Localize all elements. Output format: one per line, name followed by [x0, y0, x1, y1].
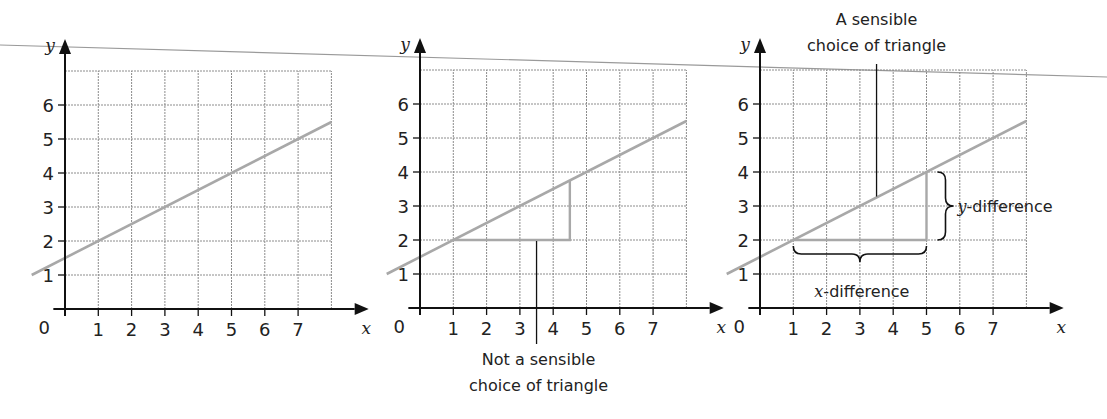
origin-label: 0 [734, 316, 745, 337]
x-axis-label: x [362, 318, 372, 338]
x-tick-label: 6 [259, 319, 270, 340]
x-tick-label: 5 [581, 318, 592, 339]
x-tick-label: 7 [987, 318, 998, 339]
gradient-triangles-figure: 12345671234560xy12345671234560xyNot a se… [0, 0, 1107, 419]
x-tick-label: 6 [954, 318, 965, 339]
callout-text: A sensible [836, 10, 918, 29]
y-difference-brace [938, 172, 954, 240]
y-tick-label: 6 [43, 95, 54, 116]
x-tick-label: 2 [481, 318, 492, 339]
y-tick-label: 6 [738, 94, 749, 115]
y-tick-label: 2 [43, 231, 54, 252]
y-axis-label: y [44, 35, 55, 55]
y-tick-label: 5 [398, 128, 409, 149]
x-difference-label: x-difference [814, 282, 909, 301]
x-tick-label: 7 [647, 318, 658, 339]
y-tick-label: 3 [738, 196, 749, 217]
y-tick-label: 2 [738, 230, 749, 251]
callout-text: choice of triangle [469, 376, 608, 395]
x-tick-label: 1 [93, 319, 104, 340]
panel-2: 12345671234560xyNot a sensiblechoice of … [387, 34, 727, 395]
x-tick-label: 7 [292, 319, 303, 340]
x-tick-label: 1 [448, 318, 459, 339]
panel-1: 12345671234560xy [32, 35, 372, 340]
y-tick-label: 5 [738, 128, 749, 149]
graph-line [32, 122, 332, 275]
x-variable: x [814, 282, 823, 301]
callout-text: Not a sensible [482, 350, 596, 369]
y-tick-label: 6 [398, 94, 409, 115]
y-tick-label: 4 [738, 162, 749, 183]
y-axis-label: y [399, 34, 410, 54]
y-tick-label: 1 [738, 264, 749, 285]
callout-text: choice of triangle [807, 36, 946, 55]
x-axis-label: x [1057, 317, 1067, 337]
x-tick-label: 1 [788, 318, 799, 339]
y-difference-label: y-difference [957, 197, 1053, 216]
x-axis-label: x [717, 317, 727, 337]
y-tick-label: 3 [43, 197, 54, 218]
x-tick-label: 3 [514, 318, 525, 339]
x-tick-label: 5 [226, 319, 237, 340]
x-tick-label: 4 [547, 318, 558, 339]
y-tick-label: 1 [43, 265, 54, 286]
x-tick-label: 2 [821, 318, 832, 339]
y-tick-label: 3 [398, 196, 409, 217]
x-axis-arrow-icon [1050, 302, 1064, 314]
x-tick-label: 3 [159, 319, 170, 340]
x-axis-arrow-icon [710, 302, 724, 314]
y-tick-label: 4 [398, 162, 409, 183]
panels: 12345671234560xy12345671234560xyNot a se… [32, 10, 1067, 395]
y-tick-label: 5 [43, 129, 54, 150]
figure-canvas: 12345671234560xy12345671234560xyNot a se… [0, 0, 1107, 419]
x-tick-label: 4 [887, 318, 898, 339]
x-tick-label: 2 [126, 319, 137, 340]
x-tick-label: 6 [614, 318, 625, 339]
origin-label: 0 [394, 316, 405, 337]
y-axis-arrow-icon [414, 38, 426, 53]
y-axis-arrow-icon [754, 38, 766, 53]
x-tick-label: 5 [921, 318, 932, 339]
y-tick-label: 1 [398, 264, 409, 285]
y-axis-label: y [739, 34, 750, 54]
y-tick-label: 2 [398, 230, 409, 251]
difference-text: -difference [823, 282, 909, 301]
x-tick-label: 3 [854, 318, 865, 339]
difference-text: -difference [967, 197, 1053, 216]
panel-3: 12345671234560xyA sensiblechoice of tria… [727, 10, 1067, 339]
x-tick-label: 4 [192, 319, 203, 340]
x-axis-arrow-icon [355, 303, 369, 315]
origin-label: 0 [39, 317, 50, 338]
y-tick-label: 4 [43, 163, 54, 184]
